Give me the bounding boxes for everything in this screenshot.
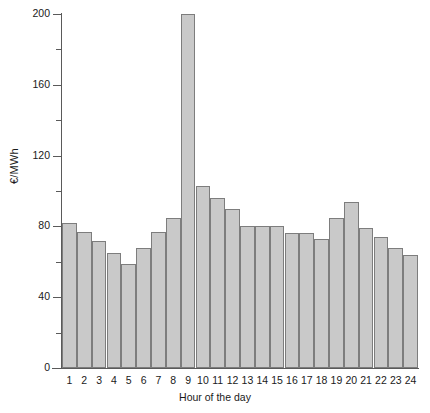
bar xyxy=(77,232,92,368)
x-tick-label: 13 xyxy=(240,374,255,386)
bar xyxy=(181,14,196,368)
x-tick-label: 9 xyxy=(181,374,196,386)
bar xyxy=(225,209,240,368)
bar xyxy=(240,226,255,368)
plot-area xyxy=(62,14,418,368)
x-tick-label: 11 xyxy=(210,374,225,386)
bar xyxy=(285,233,300,368)
x-tick-label: 2 xyxy=(77,374,92,386)
bar xyxy=(166,218,181,368)
x-tick-label: 6 xyxy=(136,374,151,386)
bar xyxy=(92,241,107,368)
x-tick-label: 12 xyxy=(225,374,240,386)
x-tick-label: 24 xyxy=(403,374,418,386)
bar xyxy=(136,248,151,368)
bar xyxy=(329,218,344,368)
y-axis-label: €/MWh xyxy=(8,104,20,184)
x-tick-label: 10 xyxy=(196,374,211,386)
bar-chart: €/MWh 04080120160200 1234567891011121314… xyxy=(0,0,430,413)
x-tick-label: 8 xyxy=(166,374,181,386)
y-tick-label: 160 xyxy=(32,78,50,90)
bar xyxy=(107,253,122,368)
x-tick-label: 23 xyxy=(388,374,403,386)
x-tick-label: 4 xyxy=(107,374,122,386)
bar xyxy=(374,237,389,368)
bar xyxy=(121,264,136,368)
y-tick-mark xyxy=(53,14,62,15)
x-tick-label: 15 xyxy=(270,374,285,386)
x-axis-label: Hour of the day xyxy=(0,391,430,403)
y-tick-label: 200 xyxy=(32,7,50,19)
y-tick-mark xyxy=(53,297,62,298)
x-tick-label: 22 xyxy=(374,374,389,386)
x-tick-label: 16 xyxy=(285,374,300,386)
y-tick-mark xyxy=(53,226,62,227)
y-tick-label: 120 xyxy=(32,149,50,161)
y-tick-mark xyxy=(53,368,62,369)
bar xyxy=(388,248,403,368)
x-tick-label: 14 xyxy=(255,374,270,386)
y-tick-mark xyxy=(53,156,62,157)
y-tick-label: 0 xyxy=(44,361,50,373)
bar xyxy=(62,223,77,368)
bar xyxy=(196,186,211,368)
x-tick-label: 3 xyxy=(92,374,107,386)
bar xyxy=(151,232,166,368)
y-tick-label: 80 xyxy=(38,219,50,231)
bar xyxy=(403,255,418,368)
bar xyxy=(270,226,285,368)
x-tick-label: 21 xyxy=(359,374,374,386)
x-tick-label: 18 xyxy=(314,374,329,386)
bar xyxy=(344,202,359,368)
bar xyxy=(255,226,270,368)
y-tick-label: 40 xyxy=(38,290,50,302)
bar xyxy=(314,239,329,368)
x-tick-label: 1 xyxy=(62,374,77,386)
x-tick-label: 20 xyxy=(344,374,359,386)
x-tick-label: 17 xyxy=(299,374,314,386)
bar xyxy=(210,198,225,368)
x-tick-label: 19 xyxy=(329,374,344,386)
y-tick-mark xyxy=(53,85,62,86)
x-tick-label: 5 xyxy=(121,374,136,386)
x-axis-line xyxy=(52,368,419,369)
x-tick-label: 7 xyxy=(151,374,166,386)
bar xyxy=(359,228,374,368)
bar xyxy=(299,233,314,368)
